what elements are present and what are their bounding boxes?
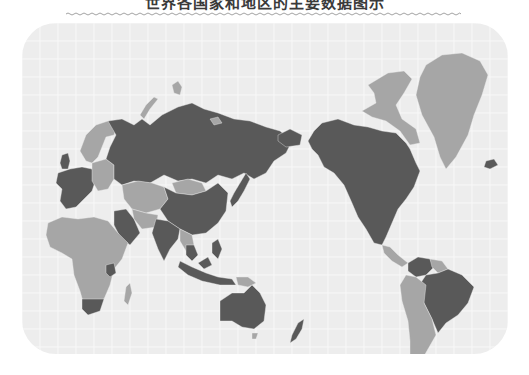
- region-madagascar[interactable]: [124, 283, 132, 305]
- region-svalbard[interactable]: [172, 81, 182, 95]
- region-australia[interactable]: [220, 285, 266, 329]
- region-united-kingdom[interactable]: [60, 153, 70, 169]
- region-north-america[interactable]: [278, 119, 420, 245]
- region-thailand[interactable]: [186, 245, 198, 261]
- region-papua-new-guinea[interactable]: [236, 277, 256, 287]
- region-russia[interactable]: [106, 103, 292, 185]
- world-map: [22, 23, 508, 354]
- region-tasmania[interactable]: [252, 333, 258, 339]
- region-south-africa[interactable]: [82, 299, 104, 315]
- region-eastern-europe[interactable]: [92, 159, 114, 191]
- title-underline: [66, 12, 461, 16]
- map-canvas: [22, 23, 508, 354]
- region-central-america[interactable]: [382, 245, 408, 267]
- region-novaya-zemlya[interactable]: [140, 97, 158, 119]
- map-title: 世界各国家和地区的主要数据图示: [0, 0, 529, 12]
- region-greenland[interactable]: [416, 53, 488, 169]
- region-indonesia[interactable]: [178, 257, 236, 285]
